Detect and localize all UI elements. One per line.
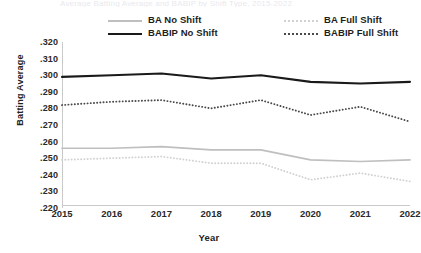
x-axis-tick-label: 2016 — [101, 208, 122, 219]
series-line — [62, 100, 410, 122]
plot-area — [62, 42, 410, 208]
x-axis-tick-label: 2019 — [250, 208, 271, 219]
x-axis-tick-label: 2021 — [350, 208, 371, 219]
x-axis-tick-label: 2020 — [300, 208, 321, 219]
x-axis-tick-label: 2018 — [201, 208, 222, 219]
x-axis-tick-label: 2022 — [399, 208, 420, 219]
series-line — [62, 157, 410, 182]
x-axis-tick-label: 2015 — [51, 208, 72, 219]
x-axis-tick-label: 2017 — [151, 208, 172, 219]
series-lines — [62, 42, 410, 208]
series-line — [62, 74, 410, 84]
series-line — [62, 147, 410, 162]
